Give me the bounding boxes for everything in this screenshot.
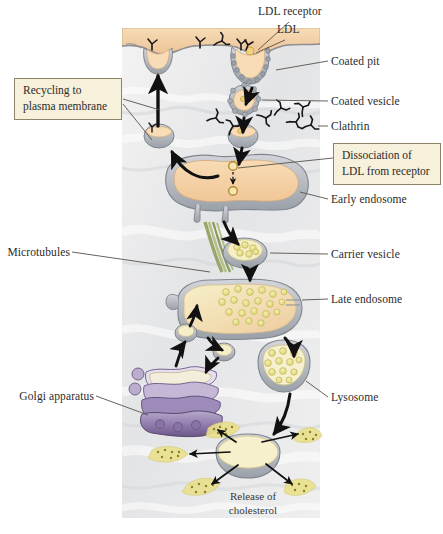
label-lysosome: Lysosome — [331, 390, 378, 404]
ldl-released — [229, 187, 238, 196]
label-early-endosome: Early endosome — [331, 192, 407, 206]
label-golgi-apparatus: Golgi apparatus — [0, 389, 94, 403]
callout-dissociation-line1: Dissociation of — [342, 149, 412, 161]
transport-vesicle-upper — [175, 324, 197, 342]
callout-recycling-line1: Recycling to — [23, 84, 81, 96]
label-carrier-vesicle: Carrier vesicle — [331, 247, 400, 261]
label-microtubules: Microtubules — [0, 245, 70, 259]
carrier-vesicle — [223, 238, 267, 268]
label-coated-vesicle: Coated vesicle — [331, 94, 400, 108]
lysosome — [258, 340, 310, 392]
callout-recycling-line2: plasma membrane — [23, 100, 107, 112]
cell-panel — [122, 28, 322, 518]
callout-dissociation: Dissociation of LDL from receptor — [333, 143, 441, 185]
label-coated-pit: Coated pit — [331, 54, 380, 68]
figure-canvas: LDL receptor LDL Coated pit Coated vesic… — [0, 0, 443, 534]
golgi-apparatus — [129, 367, 222, 437]
callout-recycling: Recycling to plasma membrane — [14, 78, 122, 120]
label-clathrin: Clathrin — [331, 119, 370, 133]
callout-dissociation-line2: LDL from receptor — [342, 165, 430, 177]
ldl-dissociating — [229, 162, 238, 171]
release-line2: cholesterol — [229, 504, 277, 516]
release-line1: Release of — [230, 490, 276, 502]
label-release-of-cholesterol: Release of cholesterol — [208, 490, 298, 518]
label-late-endosome: Late endosome — [331, 292, 402, 306]
label-ldl-receptor: LDL receptor — [258, 4, 322, 18]
label-ldl: LDL — [277, 22, 300, 36]
